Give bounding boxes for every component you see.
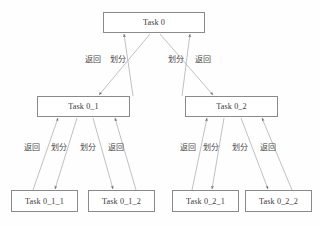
edge-return — [262, 118, 292, 190]
edge-label-return: 返回 — [24, 141, 40, 152]
edge-label-divide: 划分 — [232, 141, 248, 152]
edge-label-divide: 划分 — [51, 141, 67, 152]
task-node-label: Task 0_2_1 — [186, 197, 225, 206]
edge-label-return: 返回 — [108, 141, 124, 152]
task-node-task0-1-2[interactable]: Task 0_1_2 — [88, 190, 155, 212]
task-node-task0-1[interactable]: Task 0_1 — [37, 96, 130, 117]
edge-label-return: 返回 — [85, 53, 101, 64]
task-node-label: Task 0_1_2 — [102, 197, 141, 206]
edge-label-return: 返回 — [195, 53, 211, 64]
edge-return — [192, 118, 207, 190]
edge-divide — [93, 118, 113, 189]
edge-divide — [55, 118, 77, 189]
task-node-label: Task 0_1 — [68, 102, 98, 111]
edge-divide — [160, 34, 213, 95]
task-node-label: Task 0_1_1 — [25, 197, 64, 206]
task-node-label: Task 0 — [143, 18, 165, 27]
task-node-label: Task 0_2_2 — [259, 197, 298, 206]
edge-label-divide: 划分 — [80, 141, 96, 152]
edge-label-return: 返回 — [180, 141, 196, 152]
task-node-label: Task 0_2 — [216, 102, 246, 111]
task-node-task0-2-2[interactable]: Task 0_2_2 — [245, 190, 312, 212]
edge-return — [115, 118, 136, 190]
edge-divide — [212, 118, 224, 189]
edge-label-divide: 划分 — [168, 53, 184, 64]
edge-return — [124, 34, 133, 96]
edge-label-divide: 划分 — [110, 53, 126, 64]
edge-return — [33, 118, 58, 190]
edge-divide — [241, 118, 268, 189]
edge-divide — [99, 34, 150, 95]
task-node-task0-2[interactable]: Task 0_2 — [185, 96, 278, 117]
task-node-task0-1-1[interactable]: Task 0_1_1 — [11, 190, 78, 212]
edge-return — [182, 34, 190, 96]
task-node-task0[interactable]: Task 0 — [103, 12, 205, 33]
edge-label-divide: 划分 — [203, 141, 219, 152]
task-node-task0-2-1[interactable]: Task 0_2_1 — [172, 190, 239, 212]
task-decomposition-diagram: Task 0 Task 0_1 Task 0_2 Task 0_1_1 Task… — [0, 0, 320, 226]
edge-label-return: 返回 — [260, 141, 276, 152]
